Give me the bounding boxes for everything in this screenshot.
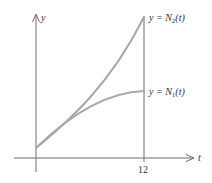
label-n2: y = N2(t) xyxy=(148,12,185,25)
label-n1-prefix: y = N xyxy=(148,86,173,97)
curve-n1 xyxy=(36,91,144,148)
curve-n2 xyxy=(36,17,144,148)
chart-canvas: y t 12 y = N2(t) y = N1(t) xyxy=(0,0,212,183)
label-n2-prefix: y = N xyxy=(148,12,173,23)
label-n1-suffix: (t) xyxy=(175,86,185,98)
label-n2-suffix: (t) xyxy=(175,12,185,24)
y-axis-label: y xyxy=(40,12,46,23)
t-axis-label: t xyxy=(198,152,201,163)
tick-label-12: 12 xyxy=(138,164,148,175)
label-n1: y = N1(t) xyxy=(148,86,185,99)
